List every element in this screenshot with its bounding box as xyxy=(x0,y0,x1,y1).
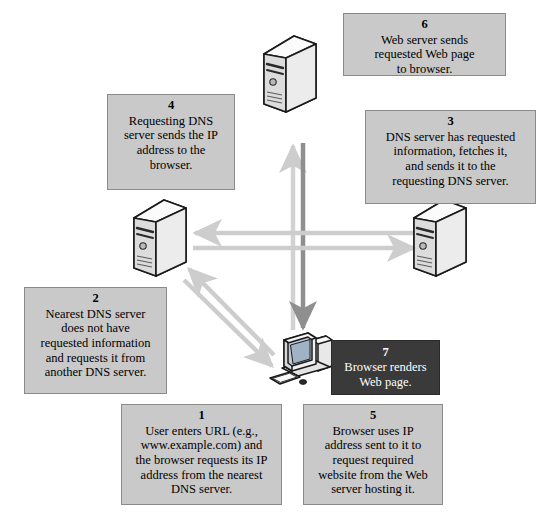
step-box-5[interactable]: 5 Browser uses IP address sent to it to … xyxy=(303,404,443,505)
step-box-2[interactable]: 2 Nearest DNS server does not have reque… xyxy=(24,287,167,394)
arrow-flow-4 xyxy=(184,280,272,366)
server-tower-icon-other-dns xyxy=(408,196,472,282)
step-text-6: Web server sends requested Web page to b… xyxy=(374,33,474,77)
step-text-5: Browser uses IP address sent to it to re… xyxy=(318,424,428,497)
server-tower-icon-web-server xyxy=(258,32,322,118)
step-number-6: 6 xyxy=(421,17,427,33)
step-number-4: 4 xyxy=(168,98,174,114)
arrow-flow-1 xyxy=(189,269,274,355)
step-number-2: 2 xyxy=(92,291,98,307)
step-text-1: User enters URL (e.g., www.example.com) … xyxy=(136,424,268,497)
step-box-4[interactable]: 4 Requesting DNS server sends the IP add… xyxy=(107,94,235,190)
step-number-7: 7 xyxy=(382,345,388,361)
step-number-3: 3 xyxy=(447,114,453,130)
server-tower-icon-nearest-dns xyxy=(128,196,192,282)
dns-flow-diagram: 6 Web server sends requested Web page to… xyxy=(0,0,545,519)
step-box-6[interactable]: 6 Web server sends requested Web page to… xyxy=(343,13,506,76)
step-text-7: Browser renders Web page. xyxy=(344,360,426,389)
step-number-5: 5 xyxy=(370,408,376,424)
step-number-1: 1 xyxy=(198,408,204,424)
desktop-computer-icon-user xyxy=(268,326,338,392)
step-box-7[interactable]: 7 Browser renders Web page. xyxy=(331,340,440,395)
step-box-1[interactable]: 1 User enters URL (e.g., www.example.com… xyxy=(121,404,282,505)
step-text-3: DNS server has requested information, fe… xyxy=(386,130,515,189)
step-box-3[interactable]: 3 DNS server has requested information, … xyxy=(365,110,536,204)
step-text-4: Requesting DNS server sends the IP addre… xyxy=(124,114,218,173)
step-text-2: Nearest DNS server does not have request… xyxy=(40,307,150,380)
